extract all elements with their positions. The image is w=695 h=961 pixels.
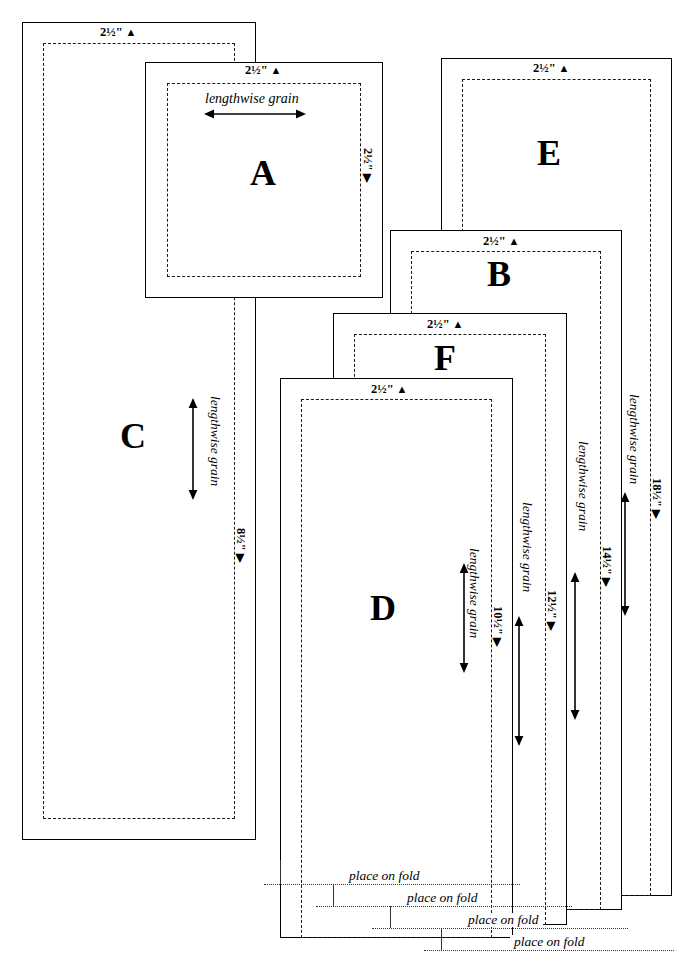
piece-D-grain-arrow (457, 563, 471, 673)
piece-B-seam-allowance-top: 2½"▲ (480, 235, 522, 248)
piece-E-sa-top-value: 2½" (533, 61, 556, 75)
fold-tick-2 (333, 884, 334, 906)
fold-line-2 (316, 906, 572, 907)
piece-C-grain-label: lengthwise grain (209, 396, 223, 486)
piece-C-grain-arrow (186, 398, 200, 500)
fold-tick-3 (390, 906, 391, 928)
piece-E-dimension-side: 18½"▶ (651, 478, 664, 518)
piece-F-grain-label: lengthwise grain (521, 502, 535, 592)
piece-A-sa-top-value: 2½" (245, 63, 268, 77)
piece-E-sa-side-value: 18½" (650, 478, 664, 507)
piece-D-cut-line (280, 378, 513, 938)
piece-C-seam-allowance-top: 2½"▲ (97, 26, 139, 39)
triangle-up-icon: ▲ (559, 63, 570, 74)
triangle-right-icon: ▶ (651, 510, 662, 518)
piece-B-sa-top-value: 2½" (483, 234, 506, 248)
triangle-up-icon: ▲ (509, 236, 520, 247)
fold-line-1 (264, 884, 520, 885)
fold-label-2: place on fold (403, 891, 482, 905)
piece-D-seam-allowance-top: 2½"▲ (368, 383, 410, 396)
triangle-up-icon: ▲ (453, 319, 464, 330)
piece-B-grain-arrow (568, 572, 582, 720)
triangle-right-icon: ▶ (601, 578, 612, 586)
fold-line-4 (424, 950, 674, 951)
piece-B-letter: B (487, 256, 511, 292)
fold-line-3 (372, 928, 628, 929)
triangle-right-icon: ▶ (546, 622, 557, 630)
piece-D-sa-side-value: 10½" (491, 606, 505, 635)
piece-E-grain-label: lengthwise grain (628, 394, 642, 484)
cutting-layout-diagram: C 2½"▲ 8½"▶ lengthwise grain A 2½"▲ 2½"▶… (0, 0, 695, 961)
triangle-up-icon: ▲ (397, 384, 408, 395)
piece-D-dimension-side: 10½"▶ (492, 606, 505, 646)
piece-F-dimension-side: 12½"▶ (546, 590, 559, 630)
fold-tick-1 (280, 860, 281, 884)
piece-A-sa-side-value: 2½" (361, 148, 375, 171)
piece-B-grain-label: lengthwise grain (577, 441, 591, 531)
piece-F-seam-allowance-top: 2½"▲ (424, 318, 466, 331)
fold-label-1: place on fold (345, 869, 424, 883)
piece-F-sa-top-value: 2½" (427, 317, 450, 331)
triangle-right-icon: ▶ (235, 554, 246, 562)
triangle-right-icon: ▶ (362, 174, 373, 182)
piece-F-sa-side-value: 12½" (545, 590, 559, 619)
triangle-up-icon: ▲ (271, 65, 282, 76)
triangle-right-icon: ▶ (492, 638, 503, 646)
fold-tick-4 (441, 928, 442, 950)
piece-C-letter: C (120, 418, 146, 454)
piece-C-sa-top-value: 2½" (100, 25, 123, 39)
fold-label-4: place on fold (510, 935, 589, 949)
piece-E-seam-allowance-top: 2½"▲ (530, 62, 572, 75)
piece-A-grain-arrow (204, 107, 306, 121)
piece-F-grain-arrow (512, 616, 526, 746)
piece-A-seam-allowance-side: 2½"▶ (362, 148, 375, 182)
piece-A-seam-allowance-top: 2½"▲ (242, 64, 284, 77)
triangle-up-icon: ▲ (126, 27, 137, 38)
piece-A-grain-label: lengthwise grain (205, 92, 299, 106)
piece-C-sa-side-value: 8½" (234, 528, 248, 551)
piece-B-dimension-side: 14½"▶ (601, 546, 614, 586)
piece-C-dimension-side: 8½"▶ (235, 528, 248, 562)
piece-E-letter: E (537, 135, 561, 171)
piece-F-letter: F (434, 340, 456, 376)
piece-D-sa-top-value: 2½" (371, 382, 394, 396)
piece-A-letter: A (250, 155, 276, 191)
fold-label-3: place on fold (464, 913, 543, 927)
piece-B-sa-side-value: 14½" (600, 546, 614, 575)
piece-D-letter: D (370, 590, 396, 626)
